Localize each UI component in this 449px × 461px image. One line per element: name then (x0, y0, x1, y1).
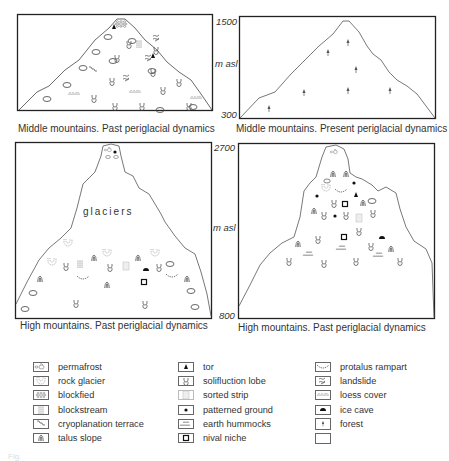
sorted-strip-mark (123, 262, 129, 270)
patterned-ground-icon (178, 405, 194, 415)
permafrost-icon (33, 362, 49, 372)
landslide-icon (315, 376, 331, 386)
panel-middle-present (239, 16, 436, 119)
panel-frame (240, 17, 436, 119)
legend-item: blockstream (33, 403, 144, 417)
legend-label: rock glacier (58, 376, 105, 386)
legend-item: sorted strip (178, 388, 273, 402)
caption-high-past-2: High mountains. Past periglacial dynamic… (238, 322, 426, 333)
legend-item: nival niche (178, 431, 273, 445)
panel-frame (16, 143, 212, 319)
axis-unit-high: m asl (213, 222, 236, 233)
axis-top-high: 2700 (214, 142, 235, 153)
rock-glacier-icon (33, 376, 49, 386)
legend-label: landslide (340, 376, 376, 386)
earth-hummocks-icon (178, 419, 194, 429)
legend-item (315, 431, 407, 445)
legend-item: talus slope (33, 431, 144, 445)
forest-icon (315, 418, 331, 430)
caption-middle-present: Middle mountains. Present periglacial dy… (236, 123, 447, 134)
legend-label: blockfied (58, 390, 94, 400)
legend-label: forest (340, 419, 363, 429)
panel-high-past-glaciers-svg (15, 142, 212, 319)
legend-item: patterned ground (178, 403, 273, 417)
legend-label: solifluction lobe (203, 376, 266, 386)
patterned-ground-mark (352, 181, 355, 184)
legend-label: nival niche (203, 433, 246, 443)
legend-item: protalus rampart (315, 360, 407, 374)
legend-item: ice cave (315, 403, 407, 417)
figure-label: Fig. (8, 452, 21, 461)
patterned-ground-mark (113, 150, 116, 153)
sorted-strip-mark (356, 214, 362, 222)
tor-icon (178, 362, 194, 372)
legend-item: loess cover (315, 388, 407, 402)
panel-high-past-detailed-svg (238, 143, 435, 319)
patterned-ground-mark (333, 214, 336, 217)
caption-middle-past: Middle mountains. Past periglacial dynam… (18, 123, 215, 134)
protalus-rampart-icon (315, 362, 331, 372)
glaciers-label: glaciers (83, 206, 133, 217)
legend: permafrost rock glacier blockfied blocks… (33, 360, 433, 460)
legend-item: forest (315, 417, 407, 431)
nival-niche-icon (178, 433, 194, 443)
legend-item: earth hummocks (178, 417, 273, 431)
legend-item: landslide (315, 374, 407, 388)
axis-top-middle: 1500 (216, 16, 237, 27)
panel-middle-present-svg (239, 16, 436, 119)
legend-label: patterned ground (203, 405, 273, 415)
empty-icon (315, 433, 331, 444)
legend-label: ice cave (340, 405, 374, 415)
legend-label: tor (203, 362, 214, 372)
legend-label: permafrost (58, 362, 102, 372)
solifluction-lobe-icon (178, 376, 194, 386)
legend-item: blockfied (33, 388, 144, 402)
legend-label: cryoplanation terrace (58, 419, 144, 429)
legend-item: permafrost (33, 360, 144, 374)
panel-frame (239, 144, 435, 319)
panel-high-past-detailed (238, 143, 435, 319)
legend-label: talus slope (58, 433, 102, 443)
loess-cover-icon (315, 390, 331, 400)
legend-label: sorted strip (203, 390, 248, 400)
legend-label: loess cover (340, 390, 386, 400)
axis-bottom-high: 800 (219, 310, 235, 321)
talus-slope-icon (33, 433, 49, 443)
panel-high-past-glaciers: glaciers (15, 142, 212, 319)
blockstream-icon (33, 405, 49, 415)
axis-unit-middle: m asl (215, 58, 238, 69)
ice-cave-icon (315, 405, 331, 415)
legend-item: solifluction lobe (178, 374, 273, 388)
legend-item: tor (178, 360, 273, 374)
legend-column-1: permafrost rock glacier blockfied blocks… (33, 360, 144, 445)
legend-column-2: tor solifluction lobe sorted strip patte… (178, 360, 273, 445)
legend-item: cryoplanation terrace (33, 417, 144, 431)
patterned-ground-mark (315, 194, 318, 197)
caption-high-past-1: High mountains. Past periglacial dynamic… (20, 320, 208, 331)
panel-middle-past (17, 14, 213, 111)
cryoplanation-terrace-icon (33, 419, 49, 429)
sorted-strip-icon (178, 390, 194, 400)
legend-label: earth hummocks (203, 419, 271, 429)
legend-item: rock glacier (33, 374, 144, 388)
panel-middle-past-svg (17, 14, 213, 111)
blockfield-icon (33, 390, 49, 400)
legend-label: blockstream (58, 405, 108, 415)
axis-bottom-middle: 300 (221, 109, 237, 120)
legend-label: protalus rampart (340, 362, 407, 372)
legend-column-3: protalus rampart landslide loess cover i… (315, 360, 407, 445)
